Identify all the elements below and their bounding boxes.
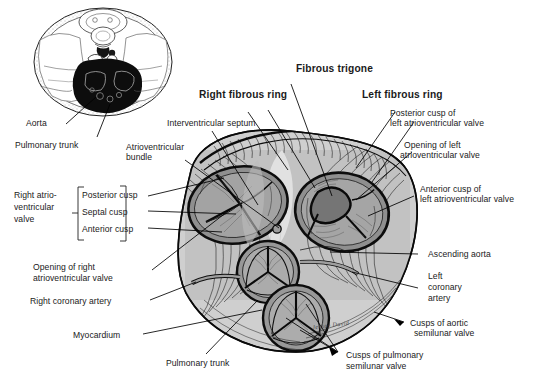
label-fibrous-trigone: Fibrous trigone — [296, 64, 373, 74]
label-left-fibrous-ring: Left fibrous ring — [362, 90, 443, 100]
label-myocardium: Myocardium — [73, 330, 120, 340]
label-anterior-cusp: Anterior cusp — [82, 224, 133, 234]
label-pulmonary-trunk-main: Pulmonary trunk — [166, 358, 229, 368]
label-posterior-cusp: Posterior cusp — [82, 190, 138, 200]
inset-label-pulmonary-trunk: Pulmonary trunk — [15, 140, 78, 150]
anatomy-figure: Aorta Pulmonary trunk Fibrous trigone Ri… — [0, 0, 545, 387]
inset-label-aorta: Aorta — [26, 118, 47, 128]
label-septal-cusp: Septal cusp — [82, 207, 127, 217]
label-right-fibrous-ring: Right fibrous ring — [199, 90, 287, 100]
label-ascending-aorta: Ascending aorta — [428, 249, 491, 259]
thoracic-cross-section-inset — [34, 8, 172, 137]
label-right-coronary-artery: Right coronary artery — [30, 296, 111, 306]
heart-base-drawing — [178, 130, 417, 356]
label-interventricular-septum: Interventricular septum — [167, 118, 256, 128]
